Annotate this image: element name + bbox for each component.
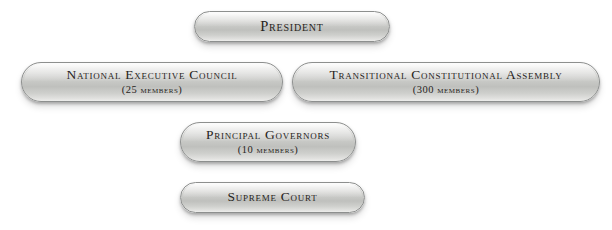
node-national-executive-council[interactable]: National Executive Council (25 members)	[21, 62, 283, 102]
node-national-executive-council-label: National Executive Council	[66, 68, 237, 83]
node-national-executive-council-sublabel: (25 members)	[122, 84, 183, 96]
node-transitional-constitutional-assembly-label: Transitional Constitutional Assembly	[330, 68, 563, 83]
node-president[interactable]: President	[194, 11, 390, 42]
node-principal-governors-label: Principal Governors	[206, 128, 330, 143]
node-transitional-constitutional-assembly[interactable]: Transitional Constitutional Assembly (30…	[292, 62, 600, 102]
node-supreme-court-label: Supreme Court	[227, 190, 317, 205]
node-principal-governors-sublabel: (10 members)	[238, 144, 299, 156]
org-chart-diagram: President National Executive Council (25…	[0, 0, 612, 230]
node-president-label: President	[260, 19, 324, 35]
node-principal-governors[interactable]: Principal Governors (10 members)	[180, 122, 356, 162]
node-supreme-court[interactable]: Supreme Court	[180, 182, 365, 213]
node-transitional-constitutional-assembly-sublabel: (300 members)	[413, 84, 479, 96]
